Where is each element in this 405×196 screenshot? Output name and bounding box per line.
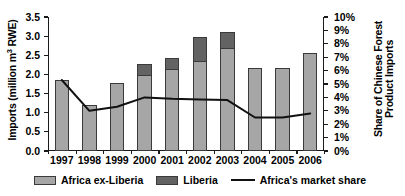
y-axis-right-tick bbox=[324, 16, 328, 17]
y-axis-right-tick bbox=[324, 57, 328, 58]
y-axis-right-tick-label: 9% bbox=[334, 25, 349, 35]
chart-container: Imports (million m3 RWE) Share of Chines… bbox=[0, 0, 405, 196]
y-axis-right-tick bbox=[324, 43, 328, 44]
y-axis-left-tick bbox=[44, 93, 48, 94]
y-axis-left-tick bbox=[44, 16, 48, 17]
legend-label-market-share: Africa's market share bbox=[260, 174, 366, 186]
y-axis-right-tick-label: 1% bbox=[334, 132, 349, 142]
y-axis-left-tick-label: 2.5 bbox=[25, 50, 40, 60]
x-axis-tick-label-2001: 2001 bbox=[158, 154, 186, 166]
legend-item-market-share: Africa's market share bbox=[231, 174, 366, 186]
x-axis-tick-labels: 1997199819992000200120022003200420052006 bbox=[48, 154, 324, 168]
legend-item-africa-ex-liberia: Africa ex-Liberia bbox=[34, 174, 143, 186]
y-axis-left-tick-labels: 3.53.02.52.01.51.00.50.0 bbox=[0, 17, 40, 151]
y-axis-left-tick-label: 3.5 bbox=[25, 12, 40, 22]
y-axis-right-tick-label: 8% bbox=[334, 38, 349, 48]
y-axis-right-tick bbox=[324, 110, 328, 111]
y-axis-right-title: Share of Chinese Forest Product Imports bbox=[373, 4, 399, 154]
legend-label-liberia: Liberia bbox=[183, 174, 217, 186]
y-axis-left-tick bbox=[44, 55, 48, 56]
y-axis-right-tick-label: 5% bbox=[334, 79, 349, 89]
y-axis-left-tick-label: 0.5 bbox=[25, 126, 40, 136]
legend-swatch-liberia-icon bbox=[156, 176, 178, 185]
x-axis-tick-label-2006: 2006 bbox=[296, 154, 324, 166]
y-axis-right-tick-label: 4% bbox=[334, 92, 349, 102]
x-axis-tick-label-1999: 1999 bbox=[103, 154, 131, 166]
y-axis-right-tick-label: 6% bbox=[334, 65, 349, 75]
y-axis-left-tick-label: 2.0 bbox=[25, 69, 40, 79]
x-axis-tick-label-2002: 2002 bbox=[186, 154, 214, 166]
legend-label-africa-ex-liberia: Africa ex-Liberia bbox=[61, 174, 143, 186]
y-axis-right-tick-label: 3% bbox=[334, 105, 349, 115]
y-axis-left-tick bbox=[44, 36, 48, 37]
y-axis-left-tick-label: 3.0 bbox=[25, 31, 40, 41]
y-axis-right-tick-label: 10% bbox=[334, 12, 355, 22]
legend-item-liberia: Liberia bbox=[156, 174, 217, 186]
x-axis-tick-label-1997: 1997 bbox=[48, 154, 76, 166]
legend-line-market-share-icon bbox=[231, 179, 255, 181]
x-axis-tick-label-2004: 2004 bbox=[241, 154, 269, 166]
market-share-line bbox=[62, 80, 310, 118]
y-axis-right-tick bbox=[324, 70, 328, 71]
legend-swatch-africa-ex-liberia-icon bbox=[34, 176, 56, 185]
y-axis-right-tick bbox=[324, 97, 328, 98]
y-axis-right-tick bbox=[324, 137, 328, 138]
y-axis-left-tick-label: 1.5 bbox=[25, 88, 40, 98]
y-axis-left-tick bbox=[44, 131, 48, 132]
x-axis-tick-label-2000: 2000 bbox=[131, 154, 159, 166]
market-share-line-svg bbox=[48, 17, 324, 151]
y-axis-right-tick-label: 0% bbox=[334, 146, 349, 156]
plot-area bbox=[48, 17, 324, 151]
x-axis-tick-label-1998: 1998 bbox=[76, 154, 104, 166]
chart-legend: Africa ex-Liberia Liberia Africa's marke… bbox=[34, 172, 374, 188]
y-axis-right-tick bbox=[324, 30, 328, 31]
y-axis-right-tick-label: 2% bbox=[334, 119, 349, 129]
y-axis-right-tick bbox=[324, 124, 328, 125]
y-axis-left-tick bbox=[44, 112, 48, 113]
y-axis-right-tick-labels: 10%9%8%7%6%5%4%3%2%1%0% bbox=[334, 17, 368, 151]
y-axis-left-tick-label: 1.0 bbox=[25, 107, 40, 117]
x-axis-tick-label-2005: 2005 bbox=[269, 154, 297, 166]
y-axis-left-tick-label: 0.0 bbox=[25, 146, 40, 156]
y-axis-right-tick-label: 7% bbox=[334, 52, 349, 62]
y-axis-left-tick bbox=[44, 74, 48, 75]
y-axis-right-tick bbox=[324, 83, 328, 84]
x-axis-tick bbox=[324, 150, 325, 154]
x-axis-tick-label-2003: 2003 bbox=[214, 154, 242, 166]
